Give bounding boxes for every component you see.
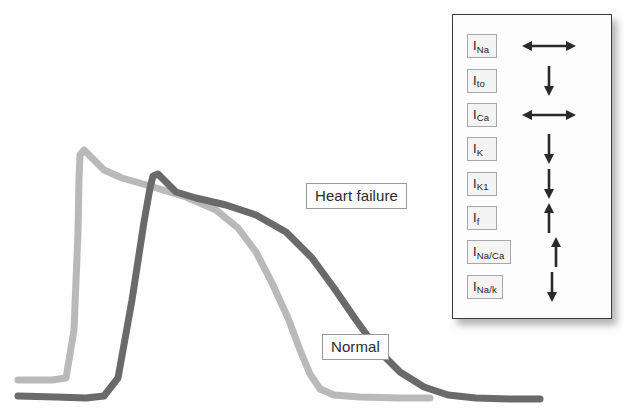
legend-row-list: INaItoICaIKIK1IfINa/CaINa/k: [453, 15, 611, 318]
legend-row: INa/Ca: [453, 237, 611, 267]
up-arrow-icon: [511, 237, 601, 267]
heart-failure-annotation-label: Heart failure: [306, 183, 407, 209]
current-subscript: Na: [477, 44, 490, 55]
legend-row: INa/k: [453, 272, 611, 302]
current-label-chip: INa/Ca: [467, 240, 511, 264]
up-arrow-icon: [497, 203, 601, 233]
current-subscript: K1: [477, 181, 489, 192]
double-horizontal-arrow-icon: [497, 100, 601, 130]
action-potential-figure: Heart failure Normal INaItoICaIKIK1IfINa…: [0, 0, 629, 415]
legend-row: ICa: [453, 100, 611, 130]
current-subscript: to: [477, 78, 485, 89]
current-label-chip: If: [467, 206, 497, 230]
legend-row: IK1: [453, 169, 611, 199]
current-label-chip: INa: [467, 34, 497, 58]
down-arrow-icon: [497, 169, 601, 199]
current-label-chip: IK: [467, 137, 497, 161]
current-subscript: Na/k: [477, 284, 497, 295]
ionic-currents-legend-panel: INaItoICaIKIK1IfINa/CaINa/k: [452, 14, 612, 319]
legend-row: INa: [453, 31, 611, 61]
current-label-chip: Ito: [467, 69, 497, 93]
current-label-chip: ICa: [467, 103, 497, 127]
current-subscript: Ca: [477, 112, 490, 123]
current-subscript: Na/Ca: [477, 250, 505, 261]
down-arrow-icon: [503, 272, 601, 302]
double-horizontal-arrow-icon: [497, 31, 601, 61]
current-label-chip: IK1: [467, 172, 497, 196]
legend-row: IK: [453, 134, 611, 164]
legend-row: Ito: [453, 66, 611, 96]
current-label-chip: INa/k: [467, 275, 503, 299]
current-subscript: f: [477, 216, 480, 227]
down-arrow-icon: [497, 66, 601, 96]
legend-row: If: [453, 203, 611, 233]
normal-annotation-label: Normal: [322, 334, 389, 360]
down-arrow-icon: [497, 134, 601, 164]
current-subscript: K: [477, 147, 484, 158]
